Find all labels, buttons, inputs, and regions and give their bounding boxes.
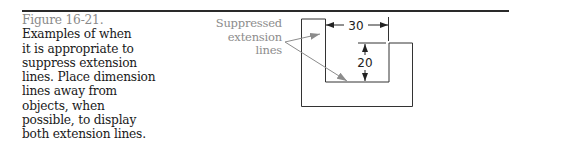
leader-line-upper — [285, 34, 320, 42]
dimension-20: 20 — [357, 56, 372, 70]
leader-line-lower — [285, 42, 347, 81]
dimension-drawing: 30 20 — [0, 0, 575, 164]
dimension-30: 30 — [348, 19, 363, 33]
